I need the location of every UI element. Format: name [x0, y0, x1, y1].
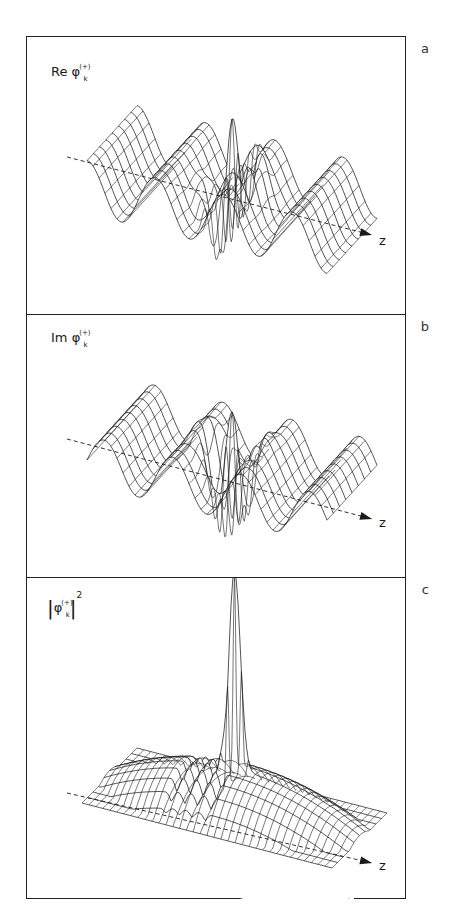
z-axis-label: z: [379, 233, 386, 248]
z-axis-label: z: [379, 858, 386, 873]
z-axis-label: z: [379, 515, 386, 530]
figure-frame: a Re φ(+)k z b Im φ(+)k z c |φ(+)k|2 z: [26, 36, 406, 899]
surface-plot-re: [27, 37, 407, 314]
panel-letter: a: [421, 41, 429, 56]
panel-a: a Re φ(+)k z: [27, 37, 405, 314]
panel-b: b Im φ(+)k z: [27, 314, 405, 577]
panel-letter: b: [421, 319, 429, 334]
panel-c: c |φ(+)k|2 z: [27, 577, 405, 900]
surface-plot-im: [27, 315, 407, 578]
panel-letter: c: [422, 582, 429, 597]
surface-plot-density: [27, 578, 407, 901]
